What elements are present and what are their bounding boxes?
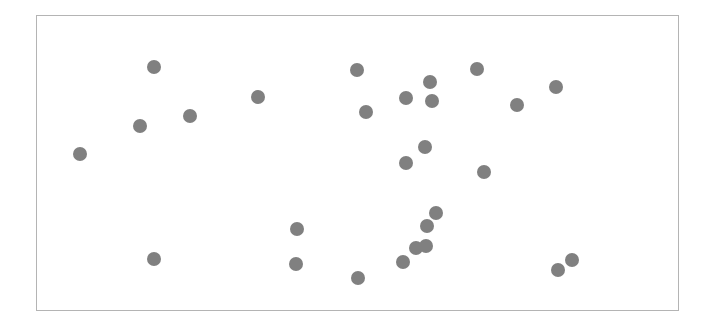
data-point [290, 222, 304, 236]
data-point [399, 156, 413, 170]
data-point [359, 105, 373, 119]
data-point [565, 253, 579, 267]
data-point [133, 119, 147, 133]
data-point [510, 98, 524, 112]
scatter-plot-area [36, 15, 679, 311]
data-point [350, 63, 364, 77]
data-point [425, 94, 439, 108]
data-point [551, 263, 565, 277]
data-point [351, 271, 365, 285]
data-point [73, 147, 87, 161]
data-point [396, 255, 410, 269]
data-point [289, 257, 303, 271]
data-point [423, 75, 437, 89]
data-point [183, 109, 197, 123]
data-point [420, 219, 434, 233]
data-point [549, 80, 563, 94]
data-point [418, 140, 432, 154]
data-point [147, 60, 161, 74]
data-point [470, 62, 484, 76]
data-point [399, 91, 413, 105]
data-point [419, 239, 433, 253]
data-point [429, 206, 443, 220]
data-point [147, 252, 161, 266]
data-point [477, 165, 491, 179]
data-point [251, 90, 265, 104]
